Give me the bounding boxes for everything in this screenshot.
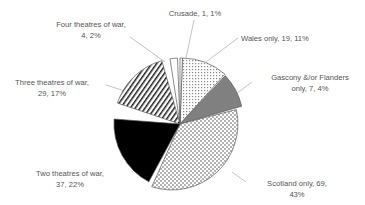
label-wales-only: Wales only, 19, 11% — [241, 34, 309, 43]
leader-line-four — [130, 37, 165, 62]
label-gascony-flanders-line2: only, 7, 4% — [291, 84, 328, 93]
leader-line-scotland — [232, 172, 246, 182]
label-two-theatres-line1: Two theatres of war, — [36, 169, 104, 178]
label-crusade: Crusade, 1, 1% — [169, 9, 222, 18]
label-four-theatres-line2: 4, 2% — [81, 31, 101, 40]
leader-line-wales — [206, 38, 238, 62]
label-two-theatres-line2: 37, 22% — [56, 180, 84, 189]
label-three-theatres-line2: 29, 17% — [38, 89, 66, 98]
pie-chart-svg: Crusade, 1, 1% Wales only, 19, 11% Gasco… — [0, 0, 365, 205]
label-scotland-only-line1: Scotland only, 69, — [267, 179, 327, 188]
pie-slice-three-theatres-of-war[interactable] — [117, 61, 180, 124]
leader-line-crusade — [186, 20, 194, 58]
label-four-theatres-line1: Four theatres of war, — [56, 20, 126, 29]
pie-slices — [114, 58, 242, 190]
label-three-theatres-line1: Three theatres of war, — [15, 78, 89, 87]
label-scotland-only-line2: 43% — [289, 190, 304, 199]
label-gascony-flanders-line1: Gascony &/or Flanders — [271, 73, 349, 82]
pie-chart-figure: Crusade, 1, 1% Wales only, 19, 11% Gasco… — [0, 0, 365, 205]
